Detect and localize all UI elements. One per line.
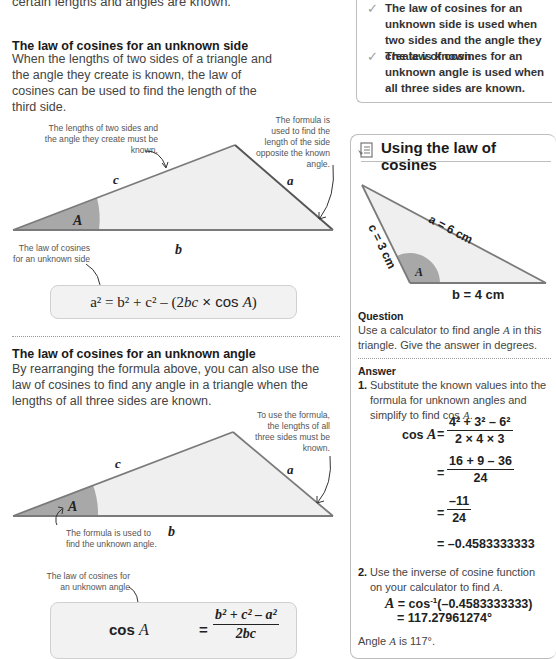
label-c-2: c (115, 456, 121, 472)
question-text: Use a calculator to find angle A in this… (358, 323, 548, 353)
calc-result: = –0.4583333333 (437, 537, 535, 551)
section-divider (12, 336, 340, 337)
step2-number: 2. (358, 565, 367, 580)
annotation-unknown-angle: The formula is used to find the unknown … (66, 528, 166, 550)
conclusion: Angle A is 117°. (358, 634, 435, 649)
calc-eq-1: = (437, 427, 444, 441)
check-icon: ✓ (367, 49, 378, 64)
formula-angle-lhs: cos A (109, 621, 149, 639)
label-angle-A: A (73, 213, 82, 229)
annotation-formula-side: The law of cosines for an unknown side (12, 243, 90, 265)
intro-text: certain lengths and angles are known. (12, 0, 231, 10)
annotation-formula-angle: The law of cosines for an unknown angle (40, 571, 130, 593)
label-a-2: a (287, 462, 294, 478)
label-a: a (287, 173, 294, 189)
question-heading: Question (358, 310, 404, 322)
tip-box: ✓ The law of cosines for an unknown side… (356, 0, 552, 96)
label-b: b (175, 242, 182, 258)
title-divider (361, 161, 551, 162)
example-angle-A: A (415, 265, 423, 280)
formula-angle-eq: = (199, 621, 208, 638)
section-angle-heading: The law of cosines for an unknown angle (12, 346, 256, 362)
check-icon: ✓ (367, 1, 378, 16)
formula-angle-fraction: b² + c² – a² 2bc (213, 607, 279, 642)
tip-item-2: The law of cosines for an unknown angle … (385, 48, 550, 96)
formula-box-angle: cos A = b² + c² – a² 2bc (50, 602, 297, 659)
calc-fraction-2: 16 + 9 – 36 24 (447, 454, 514, 485)
calc-fraction-1: 4² + 3² – 6² 2 × 4 × 3 (447, 415, 513, 446)
inverse-cos-result: = 117.27961274° (397, 611, 492, 625)
calc-eq-2: = (437, 466, 444, 480)
tip-box-bottom (356, 96, 552, 103)
calc-fraction-3: –11 24 (447, 494, 471, 525)
step2-text: Use the inverse of cosine function on yo… (370, 565, 548, 595)
step1-number: 1. (358, 378, 367, 393)
label-c: c (113, 172, 119, 188)
question-divider (358, 358, 551, 359)
formula-box-side: a² = b² + c² – (2bc × cos A) (50, 285, 297, 319)
worked-example-title: Using the law of cosines (381, 139, 556, 173)
section-side-body: When the lengths of two sides of a trian… (12, 51, 277, 115)
example-side-b: b = 4 cm (452, 287, 504, 302)
calc-eq-3: = (437, 506, 444, 520)
section-angle-body: By rearranging the formula above, you ca… (12, 361, 332, 409)
answer-heading: Answer (358, 365, 396, 377)
worked-example-icon (357, 141, 375, 159)
label-b-2: b (168, 524, 175, 540)
label-angle-A-2: A (68, 499, 77, 515)
calc-lhs: cos A (402, 427, 436, 443)
formula-side: a² = b² + c² – (2bc × cos A) (51, 286, 296, 318)
inverse-cos-expression: A = cos-1(–0.4583333333) (385, 596, 533, 612)
